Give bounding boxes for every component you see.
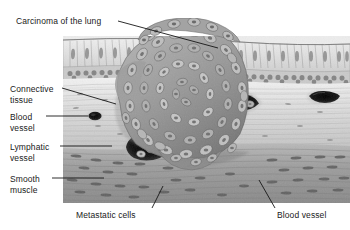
label-blood-vessel-right: Blood vessel (277, 210, 326, 221)
paper-grain (63, 36, 350, 203)
illustration-canvas (0, 0, 350, 230)
label-smooth-muscle: Smooth muscle (10, 174, 40, 195)
label-blood-vessel-left: Blood vessel (10, 112, 35, 133)
label-carcinoma: Carcinoma of the lung (16, 16, 101, 27)
histology-figure: Carcinoma of the lung Connective tissue … (0, 0, 350, 230)
label-lymphatic-vessel: Lymphatic vessel (10, 142, 49, 163)
label-metastatic-cells: Metastatic cells (76, 210, 136, 221)
label-connective-tissue: Connective tissue (10, 84, 54, 105)
